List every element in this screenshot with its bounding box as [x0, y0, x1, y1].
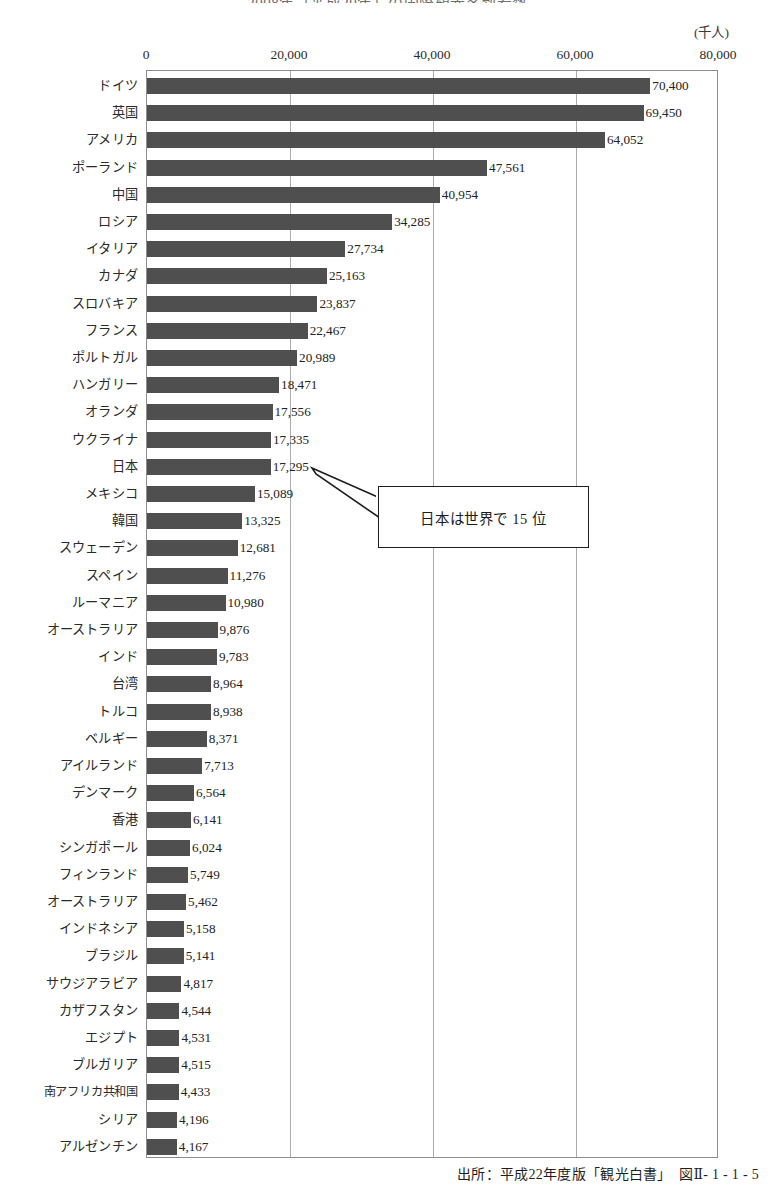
bar-row: 香港6,141 — [0, 809, 775, 831]
bar-value-label: 4,531 — [181, 1027, 211, 1049]
bar-value-label: 4,196 — [179, 1109, 209, 1131]
category-label: メキシコ — [0, 483, 138, 505]
category-label: オーストラリア — [0, 891, 138, 913]
bar-row: ベルギー8,371 — [0, 728, 775, 750]
bar — [147, 296, 317, 312]
bar-value-label: 34,285 — [394, 211, 430, 233]
category-label: ポルトガル — [0, 347, 138, 369]
bar-value-label: 4,167 — [179, 1136, 209, 1158]
bar — [147, 649, 217, 665]
bar — [147, 1084, 179, 1100]
bar — [147, 812, 191, 828]
bar — [147, 704, 211, 720]
bar-row: スロバキア23,837 — [0, 293, 775, 315]
bar-row: アメリカ64,052 — [0, 129, 775, 151]
category-label: ベルギー — [0, 728, 138, 750]
category-label: 南アフリカ共和国 — [0, 1081, 138, 1103]
category-label: ウクライナ — [0, 429, 138, 451]
bar-row: デンマーク6,564 — [0, 782, 775, 804]
bar-row: イタリア27,734 — [0, 238, 775, 260]
category-label: フランス — [0, 320, 138, 342]
bar-value-label: 20,989 — [299, 347, 335, 369]
bar-row: ポーランド47,561 — [0, 157, 775, 179]
bar — [147, 540, 238, 556]
category-label: オランダ — [0, 401, 138, 423]
bar-row: シンガポール6,024 — [0, 837, 775, 859]
category-label: 英国 — [0, 102, 138, 124]
bar — [147, 404, 273, 420]
category-label: シンガポール — [0, 837, 138, 859]
bar — [147, 622, 218, 638]
bar-row: ブラジル5,141 — [0, 945, 775, 967]
bar — [147, 268, 327, 284]
bar-value-label: 17,556 — [275, 401, 311, 423]
bar-row: インド9,783 — [0, 646, 775, 668]
bar-value-label: 7,713 — [204, 755, 234, 777]
bar — [147, 568, 228, 584]
bar-row: アルゼンチン4,167 — [0, 1136, 775, 1158]
bar-row: オランダ17,556 — [0, 401, 775, 423]
bar — [147, 241, 345, 257]
category-label: 台湾 — [0, 673, 138, 695]
bar-row: サウジアラビア4,817 — [0, 973, 775, 995]
category-label: ルーマニア — [0, 592, 138, 614]
x-tick-label-60000: 60,000 — [556, 47, 593, 63]
x-tick-label-20000: 20,000 — [270, 47, 307, 63]
category-label: イタリア — [0, 238, 138, 260]
bar-value-label: 8,938 — [213, 701, 243, 723]
bar-row: アイルランド7,713 — [0, 755, 775, 777]
bar — [147, 323, 308, 339]
bar-value-label: 15,089 — [257, 483, 293, 505]
bar-value-label: 5,158 — [186, 918, 216, 940]
bar-row: ブルガリア4,515 — [0, 1054, 775, 1076]
bar-row: ハンガリー18,471 — [0, 374, 775, 396]
bar-value-label: 25,163 — [329, 265, 365, 287]
bar-row: トルコ8,938 — [0, 701, 775, 723]
bar-value-label: 18,471 — [281, 374, 317, 396]
category-label: カザフスタン — [0, 1000, 138, 1022]
source-note: 出所：平成22年度版「観光白書」 図Ⅱ- 1 - 1 - 5 — [457, 1163, 759, 1183]
chart-title: 2008年（平成20年）の国際観光客到着数 — [0, 0, 775, 3]
bar-row: エジプト4,531 — [0, 1027, 775, 1049]
category-label: ポーランド — [0, 157, 138, 179]
bar-row: カザフスタン4,544 — [0, 1000, 775, 1022]
bar-value-label: 64,052 — [607, 129, 643, 151]
category-label: アイルランド — [0, 755, 138, 777]
category-label: ドイツ — [0, 75, 138, 97]
category-label: 日本 — [0, 456, 138, 478]
bar — [147, 595, 226, 611]
bar-value-label: 4,544 — [181, 1000, 211, 1022]
bar-value-label: 9,783 — [219, 646, 249, 668]
callout-text: 日本は世界で 15 位 — [379, 507, 588, 528]
category-label: サウジアラビア — [0, 973, 138, 995]
bar-value-label: 9,876 — [220, 619, 250, 641]
category-label: フィンランド — [0, 864, 138, 886]
bar — [147, 160, 487, 176]
bar — [147, 187, 440, 203]
x-tick-label-0: 0 — [143, 47, 150, 63]
bar — [147, 350, 297, 366]
bar — [147, 785, 194, 801]
bar — [147, 105, 644, 121]
bar-row: オーストラリア9,876 — [0, 619, 775, 641]
bar — [147, 731, 207, 747]
plot-area — [146, 70, 718, 1158]
bar-row: 台湾8,964 — [0, 673, 775, 695]
bar-value-label: 12,681 — [240, 537, 276, 559]
category-label: シリア — [0, 1109, 138, 1131]
callout-box[interactable]: 日本は世界で 15 位 — [378, 486, 589, 548]
bar-value-label: 27,734 — [347, 238, 383, 260]
y-unit-label: (千人) — [694, 21, 729, 41]
bar-value-label: 17,295 — [273, 456, 309, 478]
bar — [147, 132, 605, 148]
bar-value-label: 6,564 — [196, 782, 226, 804]
category-label: アルゼンチン — [0, 1136, 138, 1158]
bar-value-label: 10,980 — [228, 592, 264, 614]
x-tick-label-80000: 80,000 — [699, 47, 736, 63]
bar — [147, 1057, 179, 1073]
bar — [147, 513, 242, 529]
bar-value-label: 23,837 — [319, 293, 355, 315]
category-label: ハンガリー — [0, 374, 138, 396]
bar — [147, 921, 184, 937]
bar — [147, 676, 211, 692]
